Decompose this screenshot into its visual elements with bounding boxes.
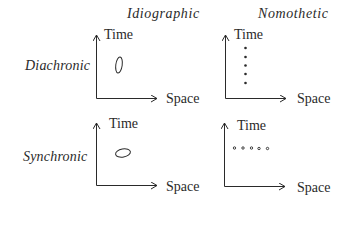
space-axis-label: Space	[297, 91, 330, 107]
dot-column	[244, 47, 247, 85]
time-axis-label: Time	[234, 27, 263, 43]
time-axis-label: Time	[237, 118, 266, 134]
panel-diachronic-nomothetic	[226, 35, 287, 99]
time-axis-label: Time	[109, 116, 138, 132]
space-axis-label: Space	[166, 179, 199, 195]
time-axis-label: Time	[104, 27, 133, 43]
panel-diachronic-idiographic	[97, 35, 158, 99]
ellipse-mark	[115, 57, 124, 74]
panel-synchronic-idiographic	[97, 123, 158, 186]
space-axis-label: Space	[297, 180, 330, 196]
space-axis-label: Space	[166, 91, 199, 107]
dot-row	[233, 147, 268, 150]
ellipse-mark	[115, 148, 131, 158]
